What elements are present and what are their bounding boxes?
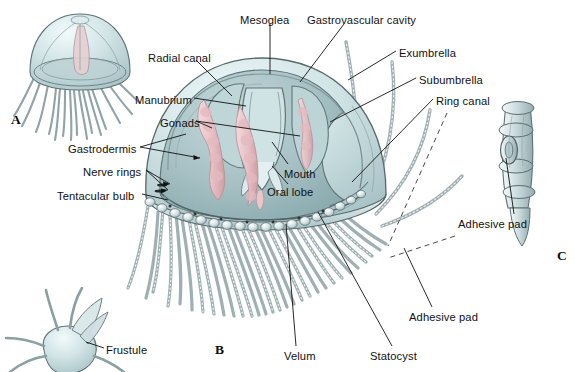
- panel-letter-b: B: [215, 342, 224, 358]
- label-exumbrella: Exumbrella: [399, 47, 456, 59]
- label-gastrodermis: Gastrodermis: [68, 143, 136, 155]
- label-nerve-rings: Nerve rings: [83, 166, 141, 178]
- label-gastrovascular-cavity: Gastrovascular cavity: [307, 14, 416, 26]
- label-frustule: Frustule: [106, 344, 147, 356]
- label-gonads: Gonads: [160, 117, 200, 129]
- label-subumbrella: Subumbrella: [419, 74, 483, 86]
- label-oral-lobe: Oral lobe: [267, 186, 313, 198]
- label-statocyst: Statocyst: [370, 350, 417, 362]
- panel-a-medusa: [14, 14, 140, 140]
- label-adhesive-pad-b: Adhesive pad: [409, 311, 478, 323]
- frustule-inset: [6, 288, 124, 372]
- label-adhesive-pad-c: Adhesive pad: [458, 218, 527, 230]
- label-mesoglea: Mesoglea: [240, 14, 289, 26]
- label-ring-canal: Ring canal: [436, 95, 490, 107]
- anatomy-figure: Mesoglea Gastrovascular cavity Radial ca…: [0, 0, 575, 372]
- label-mouth: Mouth: [284, 168, 316, 180]
- label-radial-canal: Radial canal: [148, 52, 211, 64]
- panel-letter-c: C: [557, 248, 567, 264]
- label-velum: Velum: [284, 350, 316, 362]
- label-manubrium: Manubrium: [135, 94, 192, 106]
- panel-letter-a: A: [11, 112, 21, 128]
- label-tentacular-bulb: Tentacular bulb: [57, 190, 134, 202]
